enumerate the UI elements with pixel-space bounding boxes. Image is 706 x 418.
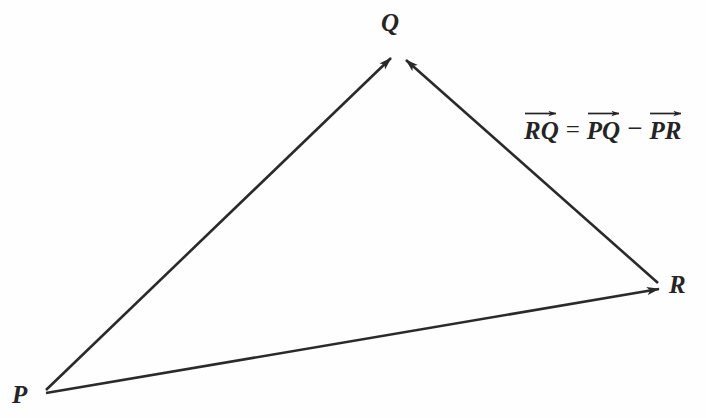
- overarrow-icon: [525, 109, 565, 118]
- vector-equation: RQ = PQ − PR: [524, 106, 681, 145]
- vector-triangle-figure: P Q R RQ = PQ − PR: [0, 0, 706, 418]
- vector-pr-line: [46, 289, 659, 393]
- vector-diagram-canvas: [0, 0, 706, 418]
- equation-term-pq: PQ: [587, 106, 620, 145]
- vertex-label-q: Q: [381, 10, 399, 35]
- vector-rq-line: [406, 60, 658, 283]
- equation-term-rq: RQ: [524, 106, 559, 145]
- vector-pq-line: [46, 58, 391, 390]
- equation-term-pr-text: PR: [649, 117, 681, 144]
- vertex-label-p: P: [12, 382, 27, 407]
- equation-minus-sign: −: [627, 113, 642, 145]
- equation-term-pr: PR: [649, 106, 681, 145]
- equation-term-pq-text: PQ: [587, 117, 620, 144]
- equation-term-rq-text: RQ: [524, 117, 559, 144]
- equation-equals-sign: =: [566, 116, 580, 145]
- overarrow-icon: [650, 109, 690, 118]
- overarrow-icon: [588, 109, 628, 118]
- vertex-label-r: R: [669, 272, 686, 297]
